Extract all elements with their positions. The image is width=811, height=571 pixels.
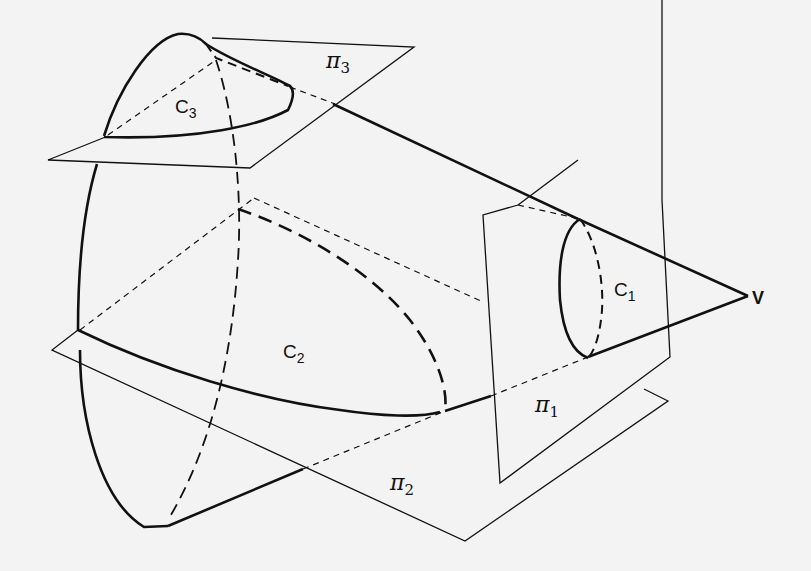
curve-c2 <box>78 330 440 416</box>
label-c2: C2 <box>283 341 305 366</box>
label-c3: C3 <box>175 96 197 121</box>
pi1-hidden-edges <box>491 205 588 396</box>
pi3-hidden-edges <box>108 60 335 135</box>
label-pi2: π2 <box>389 470 414 499</box>
label-pi1: π1 <box>534 392 559 421</box>
curve-c2-hidden <box>238 209 446 410</box>
pi2-hidden-edges <box>80 198 483 469</box>
curve-c1 <box>560 219 588 358</box>
label-c1: C1 <box>614 279 636 304</box>
conic-sections-diagram: V C1 C2 C3 π1 π2 π3 <box>0 0 811 571</box>
curve-c1-hidden <box>580 219 602 358</box>
curve-c3 <box>104 34 293 138</box>
vertex-label: V <box>752 288 764 308</box>
plane-pi1 <box>483 0 670 483</box>
cone-silhouette <box>78 104 748 527</box>
label-pi3: π3 <box>325 48 350 77</box>
